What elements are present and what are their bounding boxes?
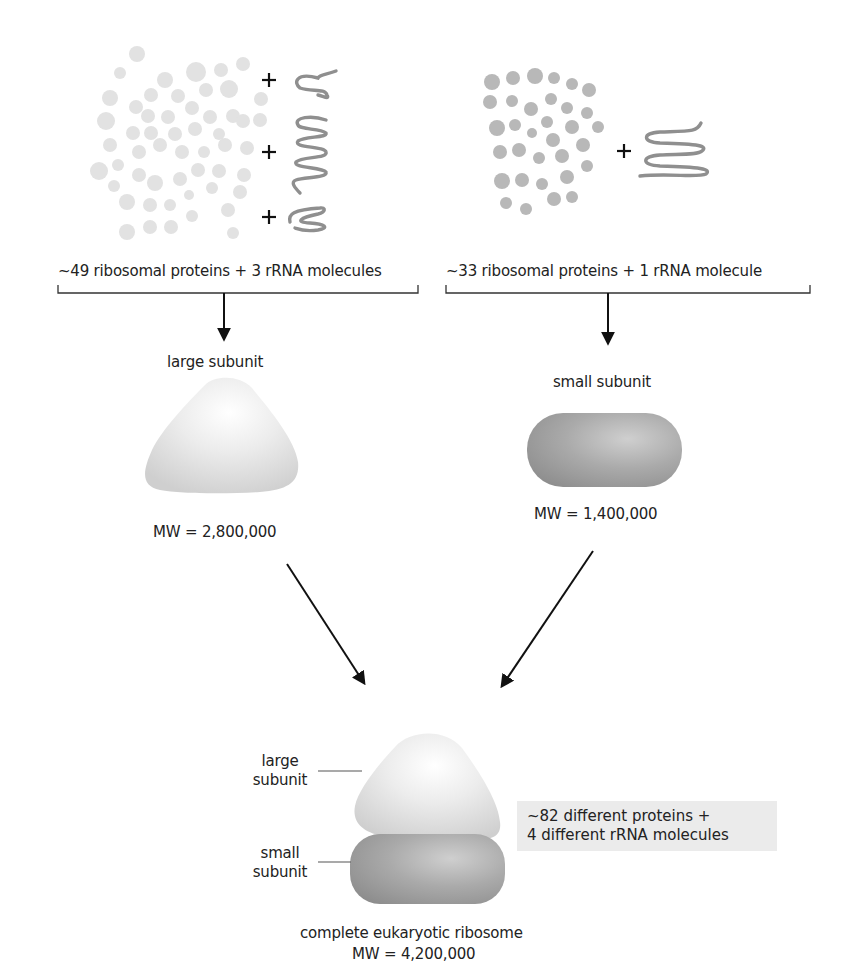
large-subunit-shape [145,378,298,493]
large-subunit-mw: MW = 2,800,000 [153,523,276,541]
small-rrna-plus-icon [617,144,631,158]
rrna-molecule-icon [290,71,336,231]
note-line1: ~82 different proteins + [527,807,767,826]
bracket-small [446,285,810,293]
ribosome-mw: MW = 4,200,000 [352,945,475,963]
small-components-label: ~33 ribosomal proteins + 1 rRNA molecule [446,262,762,280]
rrna-molecule-icon [640,123,707,176]
ribosome-large-subunit-shape [354,734,500,841]
ribosome-composition-note: ~82 different proteins + 4 different rRN… [517,801,777,851]
small-subunit-title: small subunit [553,373,651,391]
ribosome-small-subunit-shape [350,834,505,904]
ribosome-large-label-line1: large [245,752,315,771]
ribosome-large-label-line2: subunit [245,771,315,790]
ribosome-small-label-line1: small [245,844,315,863]
small-subunit-proteins-icon [483,68,604,215]
ribosome-small-label-line2: subunit [245,863,315,882]
small-subunit-mw: MW = 1,400,000 [534,505,657,523]
bracket-large [58,285,418,293]
ribosome-small-label: small subunit [245,844,315,882]
ribosome-caption: complete eukaryotic ribosome [300,924,523,942]
ribosome-large-label: large subunit [245,752,315,790]
large-subunit-title: large subunit [167,353,263,371]
arrow-small-to-ribosome [502,551,593,686]
large-components-label: ~49 ribosomal proteins + 3 rRNA molecule… [58,262,382,280]
arrow-large-to-ribosome [287,564,364,683]
note-line2: 4 different rRNA molecules [527,826,767,845]
large-subunit-proteins-icon [90,46,268,240]
small-subunit-shape [527,413,682,487]
